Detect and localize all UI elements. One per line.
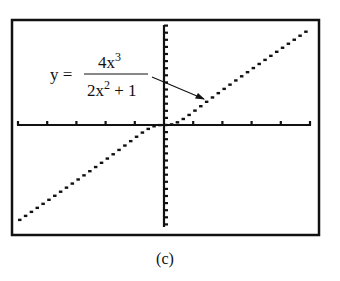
- numerator-base: 4x: [98, 53, 116, 72]
- graph-screen: y = 4x3 2x2 + 1: [0, 0, 340, 281]
- denominator-constant: + 1: [110, 81, 137, 100]
- annotation-numerator: 4x3: [98, 50, 121, 72]
- annotation-denominator: 2x2 + 1: [87, 78, 137, 100]
- numerator-exponent: 3: [115, 50, 121, 64]
- function-annotation: y = 4x3 2x2 + 1: [50, 50, 205, 100]
- annotation-arrow: [152, 77, 204, 99]
- annotation-lhs: y =: [50, 65, 72, 84]
- denominator-base: 2x: [87, 81, 105, 100]
- figure-caption: (c): [0, 250, 330, 268]
- arrowhead-icon: [195, 93, 205, 100]
